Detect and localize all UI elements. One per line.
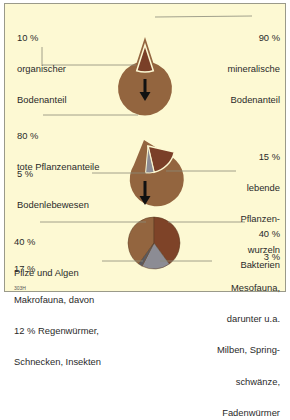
label-roots-text: lebende xyxy=(240,183,280,193)
label-macrofauna-text: Schnecken, Insekten xyxy=(14,357,101,367)
label-mesofauna-text: schwänze, xyxy=(217,377,280,387)
label-mesofauna-text: Fadenwürmer xyxy=(217,408,280,418)
label-organic-text: Bodenanteil xyxy=(17,95,67,105)
figure-code: 303H xyxy=(14,285,26,291)
label-soil-organisms-text: Bodenlebewesen xyxy=(17,200,89,210)
label-organic: 10 % organischer Bodenanteil xyxy=(17,12,67,116)
label-mesofauna-pct: 3 % xyxy=(217,252,280,262)
label-mesofauna-text: Milben, Spring- xyxy=(217,345,280,355)
label-mesofauna: 3 % Mesofauna, darunter u.a. Milben, Spr… xyxy=(217,231,280,420)
label-soil-organisms: 5 % Bodenlebewesen xyxy=(17,148,89,221)
label-mineral-text: mineralische xyxy=(227,64,280,74)
label-mineral-pct: 90 % xyxy=(227,33,280,43)
label-dead-plants-pct: 80 % xyxy=(17,131,99,141)
label-mineral: 90 % mineralische Bodenanteil xyxy=(227,12,280,116)
label-mesofauna-text: Mesofauna, xyxy=(217,283,280,293)
label-mineral-text: Bodenanteil xyxy=(227,95,280,105)
label-organic-pct: 10 % xyxy=(17,33,67,43)
label-macrofauna-text: Makrofauna, davon xyxy=(14,295,101,305)
label-soil-organisms-pct: 5 % xyxy=(17,169,89,179)
label-macrofauna-pct: 17 % xyxy=(14,264,101,274)
label-organic-text: organischer xyxy=(17,64,67,74)
label-roots-pct: 15 % xyxy=(240,152,280,162)
label-macrofauna: 17 % Makrofauna, davon 12 % Regenwürmer,… xyxy=(14,243,101,378)
label-mesofauna-text: darunter u.a. xyxy=(217,314,280,324)
pie-stage2 xyxy=(118,132,190,214)
label-macrofauna-text: 12 % Regenwürmer, xyxy=(14,326,101,336)
pie-stage1 xyxy=(118,37,172,115)
